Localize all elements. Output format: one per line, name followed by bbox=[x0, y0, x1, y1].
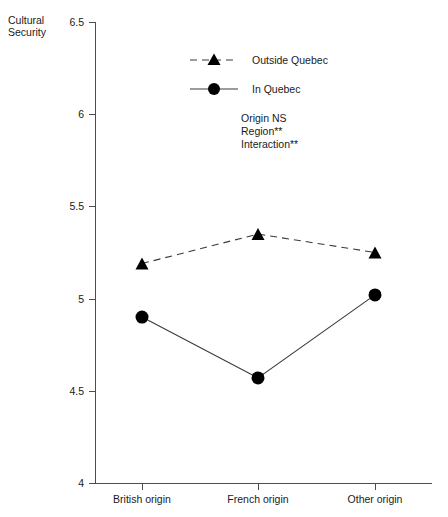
y-tick-label: 4 bbox=[78, 477, 84, 489]
chart-legend: Outside Quebec In Quebec bbox=[190, 54, 328, 96]
x-tick-label: British origin bbox=[113, 493, 171, 505]
series-markers-outside-quebec bbox=[136, 228, 382, 270]
y-axis-tick-labels: 6.5 6 5.5 5 4.5 4 bbox=[69, 16, 84, 489]
x-axis-ticks bbox=[143, 484, 376, 491]
y-tick-label: 5.5 bbox=[69, 200, 84, 212]
x-tick-label: Other origin bbox=[348, 493, 403, 505]
triangle-marker-icon bbox=[208, 54, 221, 66]
x-tick-label: French origin bbox=[227, 493, 288, 505]
series-line-in-quebec bbox=[142, 295, 375, 378]
annotation-region: Region** bbox=[241, 125, 282, 137]
data-point-triangle bbox=[136, 258, 149, 270]
series-outside-quebec bbox=[136, 228, 382, 270]
data-point-triangle bbox=[369, 247, 382, 259]
annotation-interaction: Interaction** bbox=[241, 138, 298, 150]
legend-label-in-quebec: In Quebec bbox=[252, 83, 300, 95]
y-tick-label: 5 bbox=[78, 293, 84, 305]
y-axis-ticks bbox=[89, 23, 96, 484]
x-axis-tick-labels: British origin French origin Other origi… bbox=[113, 493, 402, 505]
statistics-annotation: Origin NS Region** Interaction** bbox=[241, 112, 298, 150]
data-point-circle bbox=[252, 371, 265, 384]
y-tick-label: 6.5 bbox=[69, 16, 84, 28]
circle-marker-icon bbox=[208, 83, 220, 95]
y-tick-label: 4.5 bbox=[69, 385, 84, 397]
data-point-circle bbox=[136, 311, 149, 324]
legend-entry-outside-quebec[interactable]: Outside Quebec bbox=[190, 54, 328, 66]
y-tick-label: 6 bbox=[78, 108, 84, 120]
series-in-quebec bbox=[136, 288, 382, 384]
data-point-triangle bbox=[252, 228, 265, 240]
legend-entry-in-quebec[interactable]: In Quebec bbox=[190, 83, 300, 95]
data-point-circle bbox=[369, 288, 382, 301]
series-markers-in-quebec bbox=[136, 288, 382, 384]
chart-container: CulturalSecurity 6.5 6 5.5 5 4.5 4 bbox=[0, 0, 448, 517]
line-chart-plot: 6.5 6 5.5 5 4.5 4 British origin French … bbox=[0, 0, 448, 517]
annotation-origin: Origin NS bbox=[241, 112, 287, 124]
legend-label-outside-quebec: Outside Quebec bbox=[252, 54, 328, 66]
